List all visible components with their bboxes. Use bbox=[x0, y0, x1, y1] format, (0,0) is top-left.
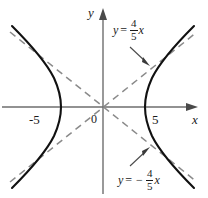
asymptote-negative-equation: y = − 4 5 x bbox=[118, 168, 160, 192]
fraction-four-fifths: 4 5 bbox=[130, 18, 138, 42]
fraction-denominator: 5 bbox=[130, 30, 138, 43]
x-tick-label-negative-5: -5 bbox=[29, 113, 40, 126]
equals-sign: = bbox=[125, 174, 132, 186]
fraction-four-fifths: 4 5 bbox=[146, 168, 154, 192]
minus-sign: − bbox=[136, 174, 143, 186]
plot-canvas bbox=[0, 0, 208, 198]
leader-arrow-upper bbox=[130, 47, 150, 66]
origin-label: 0 bbox=[91, 113, 97, 125]
fraction-denominator: 5 bbox=[146, 180, 154, 193]
hyperbola-figure: y x -5 5 0 y = 4 5 x y = − 4 5 x bbox=[0, 0, 208, 198]
equation-lhs: y bbox=[118, 174, 123, 186]
asymptote-positive-equation: y = 4 5 x bbox=[113, 18, 144, 42]
equation-lhs: y bbox=[113, 24, 118, 36]
x-tick-label-5: 5 bbox=[152, 113, 159, 126]
leader-arrow-lower bbox=[130, 147, 150, 166]
fraction-numerator: 4 bbox=[130, 18, 138, 30]
y-axis-label: y bbox=[88, 6, 94, 19]
equation-variable: x bbox=[139, 24, 144, 36]
equals-sign: = bbox=[120, 24, 127, 36]
x-axis-label: x bbox=[192, 113, 198, 126]
equation-variable: x bbox=[154, 174, 159, 186]
y-axis bbox=[99, 8, 107, 194]
x-axis bbox=[2, 103, 198, 111]
fraction-numerator: 4 bbox=[146, 168, 154, 180]
